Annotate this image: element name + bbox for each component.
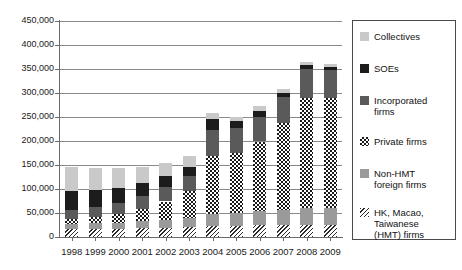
bar-segment	[300, 225, 313, 237]
bar-segment	[112, 168, 125, 187]
x-tick-mark	[330, 237, 331, 241]
bar-segment	[89, 168, 102, 190]
bar-segment	[136, 183, 149, 196]
bar-segment	[183, 227, 196, 237]
bar-segment	[300, 69, 313, 98]
bar-segment	[112, 203, 125, 215]
soes-swatch	[360, 64, 369, 73]
bar-segment	[183, 156, 196, 167]
bar-segment	[277, 89, 290, 93]
bar-segment	[253, 106, 266, 110]
bar-segment	[230, 226, 243, 237]
legend-item-label: Incorporated firms	[374, 95, 427, 117]
bar-segment	[183, 218, 196, 228]
bar-segment	[183, 176, 196, 192]
bar-2009	[324, 21, 337, 237]
bar-segment	[253, 117, 266, 142]
bar-segment	[277, 123, 290, 209]
bar-2008	[300, 21, 313, 237]
y-axis-tick-label: 350,000	[2, 64, 54, 73]
bar-segment	[206, 130, 219, 156]
bar-segment	[65, 191, 78, 210]
bar-segment	[300, 65, 313, 69]
legend-item: Private firms	[360, 136, 427, 147]
bar-segment	[136, 221, 149, 228]
bar-segment	[324, 67, 337, 70]
bar-segment	[324, 64, 337, 67]
bar-segment	[253, 111, 266, 117]
bar-segment	[300, 98, 313, 208]
bar-segment	[324, 70, 337, 98]
x-tick-mark	[166, 237, 167, 241]
bar-segment	[206, 214, 219, 226]
bar-segment	[159, 187, 172, 201]
bar-segment	[230, 128, 243, 153]
bar-segment	[112, 214, 125, 222]
y-axis-tick-label: 150,000	[2, 160, 54, 169]
y-axis-tick-label: 250,000	[2, 112, 54, 121]
bar-segment	[136, 209, 149, 221]
bar-segment	[277, 97, 290, 123]
bar-segment	[230, 213, 243, 226]
bar-segment	[277, 210, 290, 225]
bar-segment	[206, 119, 219, 130]
stacked-bar-chart: 450,000400,000350,000300,000250,000200,0…	[0, 0, 462, 270]
plot-area	[60, 21, 342, 237]
legend-item-label: SOEs	[374, 63, 399, 74]
collectives-swatch	[360, 32, 369, 41]
bar-segment	[136, 167, 149, 182]
bar-2000	[112, 21, 125, 237]
nonhmt-swatch	[360, 169, 369, 178]
bar-segment	[89, 217, 102, 223]
bar-2002	[159, 21, 172, 237]
x-tick-mark	[236, 237, 237, 241]
bar-1998	[65, 21, 78, 237]
legend-item-label: Non-HMT foreign firms	[374, 168, 426, 190]
bar-segment	[89, 229, 102, 237]
legend-item: HK, Macao, Taiwanese (HMT) firms	[360, 207, 424, 240]
bar-segment	[206, 113, 219, 119]
legend-item: SOEs	[360, 63, 399, 74]
bar-segment	[65, 167, 78, 191]
bar-segment	[159, 202, 172, 220]
bar-2005	[230, 21, 243, 237]
bar-segment	[136, 196, 149, 209]
bar-segment	[277, 225, 290, 237]
y-axis-tick-label: 0	[2, 232, 54, 241]
bar-segment	[89, 223, 102, 229]
bar-segment	[89, 207, 102, 217]
x-tick-mark	[95, 237, 96, 241]
legend-item: Non-HMT foreign firms	[360, 168, 426, 190]
bar-segment	[206, 226, 219, 237]
chart-legend: CollectivesSOEsIncorporated firmsPrivate…	[352, 20, 456, 240]
legend-item: Collectives	[360, 31, 420, 42]
bar-segment	[112, 223, 125, 229]
bar-2003	[183, 21, 196, 237]
x-tick-mark	[142, 237, 143, 241]
bar-segment	[300, 208, 313, 224]
legend-item: Incorporated firms	[360, 95, 427, 117]
bar-segment	[277, 93, 290, 97]
bar-2001	[136, 21, 149, 237]
bar-segment	[136, 228, 149, 237]
bar-segment	[230, 153, 243, 213]
bar-segment	[65, 219, 78, 224]
bar-segment	[159, 220, 172, 228]
bar-2007	[277, 21, 290, 237]
bar-segment	[183, 191, 196, 217]
bar-segment	[230, 117, 243, 122]
hmt-swatch	[360, 208, 369, 217]
bar-segment	[324, 225, 337, 237]
x-tick-mark	[213, 237, 214, 241]
bar-segment	[183, 167, 196, 176]
x-tick-mark	[119, 237, 120, 241]
bar-segment	[253, 225, 266, 237]
incorporated-swatch	[360, 96, 369, 105]
bar-1999	[89, 21, 102, 237]
legend-item-label: HK, Macao, Taiwanese (HMT) firms	[374, 207, 424, 240]
y-axis-tick-label: 50,000	[2, 208, 54, 217]
bar-segment	[300, 62, 313, 65]
x-axis-line	[59, 237, 343, 238]
bar-segment	[159, 228, 172, 237]
y-axis-tick-label: 100,000	[2, 184, 54, 193]
